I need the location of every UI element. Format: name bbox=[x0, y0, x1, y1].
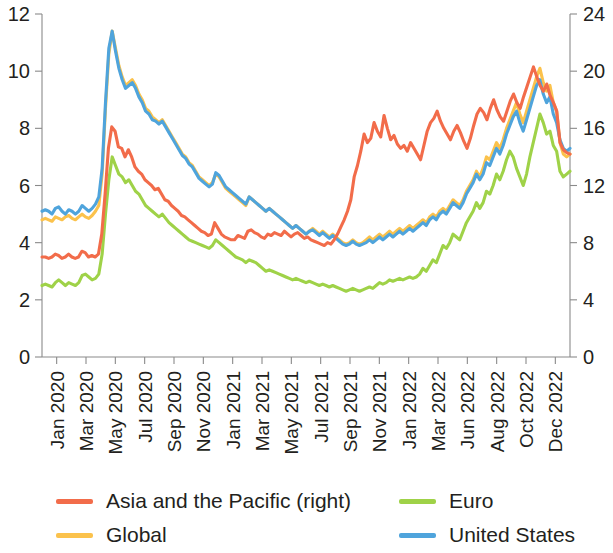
y-axis-right-tick-label: 8 bbox=[583, 232, 594, 254]
legend-item-euro[interactable]: Euro bbox=[399, 484, 575, 518]
x-axis-tick-label: Dec 2022 bbox=[545, 371, 566, 452]
y-axis-left-tick-label: 4 bbox=[19, 232, 30, 254]
legend-item-asia-pacific[interactable]: Asia and the Pacific (right) bbox=[56, 484, 351, 518]
legend-swatch-united-states bbox=[399, 533, 436, 538]
chart-container: 024681012 04812162024 Jan 2020Mar 2020Ma… bbox=[0, 0, 613, 553]
legend-item-global[interactable]: Global bbox=[56, 518, 351, 552]
legend-swatch-global bbox=[56, 533, 93, 538]
x-axis-tick-label: Aug 2022 bbox=[487, 371, 508, 452]
y-axis-left-tick-label: 10 bbox=[8, 60, 30, 82]
y-axis-right-tick-label: 12 bbox=[583, 175, 605, 197]
x-axis-tick-label: Mar 2021 bbox=[252, 371, 273, 451]
x-axis-tick-label: Jul 2020 bbox=[135, 371, 156, 443]
legend-label-united-states: United States bbox=[449, 523, 575, 547]
series-line-global bbox=[42, 31, 570, 244]
x-axis-tick-label: Jan 2020 bbox=[47, 371, 68, 449]
legend-label-euro: Euro bbox=[449, 489, 493, 513]
series-lines bbox=[42, 31, 570, 291]
x-axis-tick-label: Nov 2021 bbox=[369, 371, 390, 452]
series-line-united-states bbox=[42, 31, 570, 245]
x-axis-tick-label: Sep 2020 bbox=[164, 371, 185, 452]
y-axis-right-tick-label: 24 bbox=[583, 3, 605, 25]
y-axis-left-tick-label: 2 bbox=[19, 289, 30, 311]
x-axis-tick-label: May 2021 bbox=[281, 371, 302, 454]
legend-swatch-asia-pacific bbox=[56, 499, 93, 504]
legend-column-right: Euro United States bbox=[399, 484, 575, 552]
y-axis-left-tick-label: 12 bbox=[8, 3, 30, 25]
legend-swatch-euro bbox=[399, 499, 436, 504]
chart-legend: Asia and the Pacific (right) Global Euro… bbox=[0, 484, 613, 553]
series-line-euro bbox=[42, 114, 570, 291]
legend-label-asia-pacific: Asia and the Pacific (right) bbox=[106, 489, 351, 513]
legend-label-global: Global bbox=[106, 523, 167, 547]
y-axis-left-tick-label: 8 bbox=[19, 117, 30, 139]
x-axis-tick-label: Mar 2022 bbox=[428, 371, 449, 451]
y-axis-right-tick-label: 4 bbox=[583, 289, 594, 311]
x-axis-tick-label: Nov 2020 bbox=[193, 371, 214, 452]
legend-column-left: Asia and the Pacific (right) Global bbox=[56, 484, 351, 552]
x-axis-tick-label: Sep 2021 bbox=[340, 371, 361, 452]
line-chart-plot: 024681012 04812162024 Jan 2020Mar 2020Ma… bbox=[0, 0, 613, 484]
x-axis-tick-label: May 2020 bbox=[105, 371, 126, 454]
y-axis-right-tick-label: 20 bbox=[583, 60, 605, 82]
y-axis-right-tick-label: 0 bbox=[583, 346, 594, 368]
y-axis-left: 024681012 bbox=[8, 3, 42, 368]
x-axis-tick-label: Jan 2022 bbox=[399, 371, 420, 449]
x-axis: Jan 2020Mar 2020May 2020Jul 2020Sep 2020… bbox=[42, 357, 570, 454]
x-axis-tick-label: Jul 2021 bbox=[311, 371, 332, 443]
x-axis-tick-label: Jun 2022 bbox=[457, 371, 478, 449]
legend-item-united-states[interactable]: United States bbox=[399, 518, 575, 552]
y-axis-right-tick-label: 16 bbox=[583, 117, 605, 139]
y-axis-left-tick-label: 0 bbox=[19, 346, 30, 368]
x-axis-tick-label: Oct 2022 bbox=[516, 371, 537, 448]
x-axis-tick-label: Mar 2020 bbox=[76, 371, 97, 451]
y-axis-right: 04812162024 bbox=[570, 3, 605, 368]
y-axis-left-tick-label: 6 bbox=[19, 175, 30, 197]
x-axis-tick-label: Jan 2021 bbox=[223, 371, 244, 449]
